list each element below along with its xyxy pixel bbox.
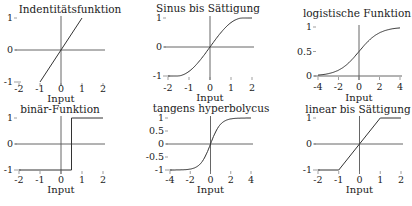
- chart-title: logistische Funktion: [303, 7, 411, 19]
- y-tick-label: 0: [7, 44, 13, 55]
- y-tick-label: 0: [306, 70, 312, 81]
- x-axis-label: Input: [47, 184, 74, 195]
- x-tick-label: -4: [313, 81, 322, 92]
- y-tick-label: -1: [303, 164, 312, 175]
- y-tick-label: 1: [7, 112, 13, 123]
- y-tick-label: 0: [158, 138, 164, 149]
- x-tick-label: -1: [184, 82, 193, 93]
- y-tick-label: 1: [156, 12, 162, 23]
- y-tick-label: 0.5: [297, 46, 312, 57]
- y-tick-label: -1: [153, 70, 162, 81]
- x-tick-label: 1: [79, 83, 85, 94]
- chart-title: Indentitätsfunktion: [19, 3, 122, 15]
- x-tick-label: 0: [356, 81, 362, 92]
- y-tick-label: 0.5: [149, 125, 164, 136]
- x-tick-label: -2: [334, 81, 343, 92]
- x-tick-label: 2: [100, 83, 106, 94]
- x-tick-label: -2: [163, 82, 172, 93]
- chart-title: tangens hyperbolycus: [153, 102, 270, 114]
- x-tick-label: -1: [35, 83, 44, 94]
- x-tick-label: 2: [398, 174, 404, 185]
- y-tick-label: 0: [7, 138, 13, 149]
- x-tick-label: -2: [313, 174, 322, 185]
- x-axis-label: Input: [197, 184, 224, 195]
- x-tick-label: 1: [377, 174, 383, 185]
- y-tick-label: 1: [7, 12, 13, 23]
- chart-panel-sine-saturation: Sinus bis Sättigung-2-1012-101Input: [153, 2, 260, 103]
- x-tick-label: -2: [14, 174, 23, 185]
- y-tick-label: -1: [4, 76, 13, 87]
- chart-panel-binary-step: binär-Funktion-2-1012-101Input: [4, 103, 106, 195]
- y-tick-label: 1: [158, 112, 164, 123]
- chart-title: binär-Funktion: [20, 103, 100, 115]
- chart-panel-identity: Indentitätsfunktion-2-1012-101Input: [4, 3, 122, 104]
- y-tick-label: 1: [306, 112, 312, 123]
- x-tick-label: -2: [14, 83, 23, 94]
- y-tick-label: -1: [155, 164, 164, 175]
- x-tick-label: 2: [228, 174, 234, 185]
- chart-panel-tanh: tangens hyperbolycus-4-2024-1-0.500.51In…: [146, 102, 270, 195]
- y-tick-label: -0.5: [146, 151, 164, 162]
- chart-title: linear bis Sättigung: [305, 103, 411, 115]
- y-tick-label: 0: [306, 138, 312, 149]
- x-axis-label: Input: [346, 184, 373, 195]
- x-tick-label: 4: [397, 81, 403, 92]
- x-tick-label: 2: [249, 82, 255, 93]
- x-tick-label: 2: [376, 81, 382, 92]
- x-tick-label: -1: [35, 174, 44, 185]
- x-tick-label: 1: [79, 174, 85, 185]
- x-tick-label: 2: [100, 174, 106, 185]
- x-tick-label: 1: [228, 82, 234, 93]
- y-tick-label: -1: [4, 164, 13, 175]
- chart-panel-linear-saturation: linear bis Sättigung-2-1012-101Input: [303, 103, 411, 195]
- chart-title: Sinus bis Sättigung: [156, 2, 260, 14]
- x-tick-label: -2: [186, 174, 195, 185]
- y-tick-label: 1: [306, 21, 312, 32]
- x-tick-label: -1: [334, 174, 343, 185]
- x-axis-label: Input: [345, 92, 372, 103]
- x-tick-label: -4: [165, 174, 174, 185]
- x-tick-label: 4: [248, 174, 254, 185]
- y-tick-label: 0: [156, 41, 162, 52]
- activation-functions-figure: Indentitätsfunktion-2-1012-101InputSinus…: [0, 0, 412, 206]
- chart-panel-logistic: logistische Funktion-4-202400.51Input: [297, 7, 411, 103]
